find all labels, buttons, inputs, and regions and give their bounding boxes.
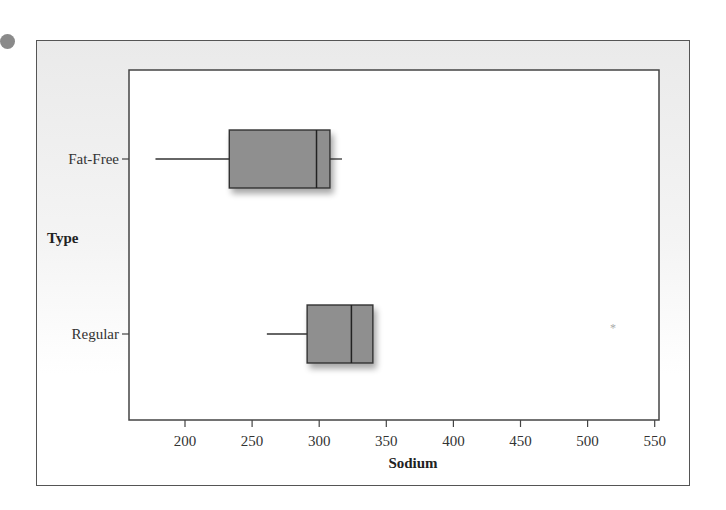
x-tick-label: 250 bbox=[241, 433, 264, 449]
x-tick-label: 300 bbox=[308, 433, 331, 449]
y-axis-title: Type bbox=[47, 230, 79, 246]
x-tick-label: 450 bbox=[509, 433, 532, 449]
x-tick-label: 550 bbox=[643, 433, 666, 449]
boxplot-chart: 200250300350400450500550 Fat-FreeRegular… bbox=[0, 0, 726, 510]
outlier-marker: * bbox=[610, 321, 616, 335]
x-tick-label: 350 bbox=[375, 433, 398, 449]
x-tick-label: 500 bbox=[576, 433, 599, 449]
y-tick-label: Fat-Free bbox=[68, 151, 119, 167]
y-axis: Fat-FreeRegular bbox=[68, 151, 129, 342]
x-axis-title: Sodium bbox=[388, 455, 438, 471]
plot-area bbox=[129, 70, 659, 420]
x-tick-label: 400 bbox=[442, 433, 465, 449]
x-axis: 200250300350400450500550 bbox=[174, 420, 666, 449]
y-tick-label: Regular bbox=[72, 326, 119, 342]
x-tick-label: 200 bbox=[174, 433, 197, 449]
